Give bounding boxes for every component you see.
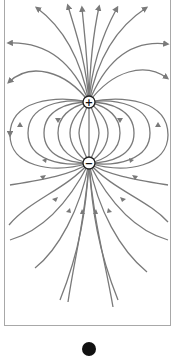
svg-text:+: + [85, 97, 93, 108]
negative-charge: − [83, 157, 95, 169]
svg-text:−: − [85, 158, 93, 169]
positive-charge: + [83, 96, 95, 108]
panel-label: a [82, 342, 96, 356]
